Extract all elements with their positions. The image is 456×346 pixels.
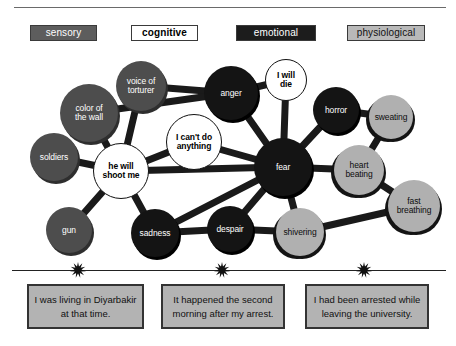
node-anger[interactable]: anger — [204, 66, 258, 120]
concept-network: color ofthe wallvoice oftorturersoldiers… — [0, 0, 456, 270]
node-fear[interactable]: fear — [254, 138, 312, 196]
timeline-burst-icon-3 — [351, 262, 377, 278]
node-label: I willdie — [275, 71, 297, 89]
diagram-canvas: sensory cognitive emotional physiologica… — [0, 0, 456, 346]
node-label: gun — [60, 226, 78, 235]
node-fast_breathing[interactable]: fastbreathing — [388, 180, 440, 232]
node-horror[interactable]: horror — [313, 87, 359, 133]
timeline-burst-icon-1 — [65, 262, 91, 278]
node-label: color ofthe wall — [73, 104, 105, 122]
node-label: fear — [274, 163, 292, 172]
node-shivering[interactable]: shivering — [276, 208, 324, 256]
node-i_cant_do_anything[interactable]: I can't doanything — [166, 114, 222, 170]
node-label: I can't doanything — [174, 133, 214, 151]
node-label: soldiers — [38, 153, 71, 162]
node-gun[interactable]: gun — [46, 207, 92, 253]
node-despair[interactable]: despair — [207, 206, 253, 252]
node-i_will_die[interactable]: I willdie — [265, 59, 307, 101]
node-label: horror — [323, 106, 349, 115]
node-label: he willshoot me — [101, 162, 142, 180]
node-color_of_the_wall[interactable]: color ofthe wall — [60, 84, 118, 142]
node-sweating[interactable]: sweating — [369, 95, 413, 139]
timeline-burst-icon-2 — [209, 262, 235, 278]
node-sadness[interactable]: sadness — [131, 209, 179, 257]
node-label: sadness — [138, 229, 173, 238]
node-he_will_shoot_me[interactable]: he willshoot me — [93, 143, 149, 199]
node-heart_beating[interactable]: heartbeating — [334, 145, 384, 195]
node-label: fastbreathing — [395, 197, 434, 215]
node-label: shivering — [281, 228, 318, 237]
caption-box-1: I was living in Diyarbakir at that time. — [27, 284, 144, 329]
caption-box-3: I had been arrested while leaving the un… — [305, 284, 429, 329]
node-label: heartbeating — [343, 161, 374, 179]
node-label: sweating — [373, 113, 410, 122]
node-soldiers[interactable]: soldiers — [30, 133, 78, 181]
node-voice_of_torturer[interactable]: voice oftorturer — [116, 61, 166, 111]
caption-box-2: It happened the second morning after my … — [161, 284, 285, 329]
node-label: anger — [218, 89, 243, 98]
node-label: voice oftorturer — [125, 77, 158, 95]
node-label: despair — [214, 225, 245, 234]
